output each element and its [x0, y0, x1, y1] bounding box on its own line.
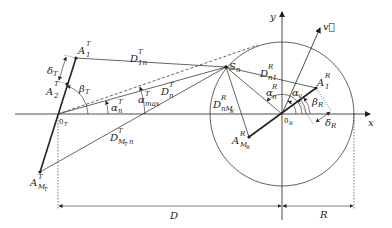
label-Sn: S n — [229, 61, 241, 74]
svg-text:n: n — [118, 107, 123, 115]
svg-text:R: R — [330, 122, 337, 130]
svg-text:v: v — [298, 92, 302, 100]
svg-text:S: S — [229, 61, 236, 72]
svg-text:D: D — [109, 132, 118, 143]
label-D: D — [169, 210, 178, 221]
svg-text:T: T — [85, 88, 91, 96]
label-velocity: v⃗ — [323, 21, 335, 32]
svg-text:D: D — [212, 99, 221, 110]
svg-text:1n: 1n — [138, 59, 147, 67]
svg-text:T: T — [53, 70, 59, 78]
label-AMT: A T M T — [29, 173, 48, 192]
svg-text:R: R — [229, 108, 234, 114]
svg-text:T: T — [54, 80, 60, 88]
svg-text:T: T — [138, 48, 144, 56]
label-delta-T: δ T — [47, 65, 59, 78]
svg-text:D: D — [160, 86, 169, 97]
label-A2T: A T 2 — [45, 80, 60, 100]
label-delta-R: δ R — [325, 117, 337, 130]
label-alpha-nT: α T n — [111, 98, 124, 115]
label-A1T: A T 1 — [77, 40, 92, 59]
svg-text:D: D — [129, 53, 138, 64]
svg-text:T: T — [38, 173, 44, 181]
svg-text:β: β — [311, 96, 318, 107]
y-axis-label: y — [269, 11, 276, 22]
label-alpha-nR: α R n — [266, 83, 278, 101]
svg-text:n: n — [236, 66, 241, 74]
svg-text:R: R — [317, 101, 324, 109]
arc-alpha-nT — [106, 101, 108, 114]
svg-text:R: R — [324, 72, 331, 80]
svg-text:R: R — [239, 130, 246, 138]
label-beta-R: β R — [311, 96, 324, 109]
svg-text:0: 0 — [59, 118, 63, 126]
svg-text:α: α — [111, 102, 118, 113]
svg-text:R: R — [245, 144, 250, 150]
label-origin-T: 0 T — [59, 118, 68, 127]
label-DMTnT: D T M T n — [109, 127, 134, 147]
geometry-diagram: x y D R A T 1 — [0, 0, 392, 228]
svg-text:A: A — [77, 45, 85, 56]
svg-text:D: D — [259, 68, 268, 79]
label-origin-R: 0 R — [284, 117, 293, 126]
line-DnMRR — [226, 67, 249, 137]
line-D1nT — [76, 58, 226, 67]
svg-text:A: A — [45, 86, 53, 97]
label-R: R — [319, 209, 328, 220]
svg-text:β: β — [78, 83, 85, 94]
svg-text:n: n — [169, 92, 174, 100]
svg-text:R: R — [271, 83, 278, 91]
svg-text:R: R — [267, 63, 274, 71]
svg-text:T: T — [64, 121, 68, 127]
label-Dn1R: D R n1 — [259, 63, 277, 82]
svg-text:A: A — [29, 177, 37, 188]
svg-text:n1: n1 — [268, 74, 277, 82]
svg-text:A: A — [231, 135, 239, 146]
svg-text:1: 1 — [325, 83, 329, 91]
svg-text:n: n — [272, 93, 277, 101]
svg-text:1: 1 — [86, 51, 90, 59]
label-DnT: D T n — [160, 81, 175, 100]
svg-text:T: T — [118, 127, 124, 135]
svg-text:0: 0 — [284, 117, 288, 125]
label-AMR: A R M R — [231, 130, 250, 150]
svg-text:α: α — [138, 94, 145, 105]
svg-text:A: A — [316, 77, 324, 88]
svg-text:T: T — [145, 90, 151, 98]
x-axis-label: x — [368, 117, 374, 128]
svg-text:R: R — [220, 94, 227, 102]
label-DnMRR: D R nM R — [212, 94, 234, 114]
label-alpha-maxT: α T max — [138, 90, 160, 108]
svg-text:2: 2 — [53, 92, 59, 100]
delta-t-dimension — [59, 57, 66, 80]
svg-text:T: T — [44, 186, 48, 192]
arc-beta-R-2 — [304, 98, 310, 114]
svg-text:max: max — [145, 100, 160, 108]
svg-text:n: n — [129, 138, 134, 146]
label-D1nT: D T 1n — [129, 48, 147, 67]
label-A1R: A R 1 — [316, 72, 331, 91]
svg-text:T: T — [169, 81, 175, 89]
svg-text:T: T — [86, 40, 92, 48]
svg-text:T: T — [124, 141, 128, 147]
svg-text:T: T — [118, 98, 124, 106]
svg-text:R: R — [288, 120, 293, 126]
